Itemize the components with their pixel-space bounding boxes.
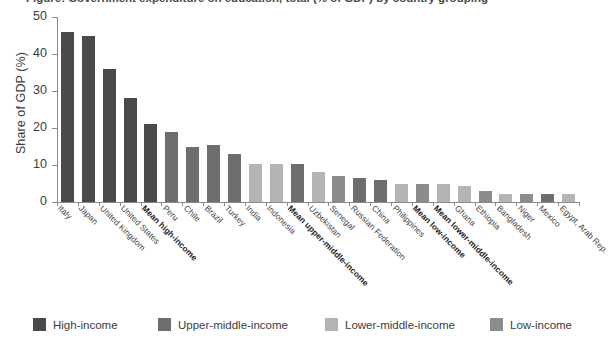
figure-title-text: Figure: Government expenditure on educat… bbox=[0, 0, 589, 5]
x-axis-label: Chile bbox=[182, 203, 203, 224]
legend-swatch-icon bbox=[158, 318, 171, 331]
legend-item[interactable]: Upper-middle-income bbox=[158, 318, 288, 331]
bar bbox=[249, 164, 262, 202]
bar bbox=[103, 69, 116, 202]
chart-legend: High-incomeUpper-middle-incomeLower-midd… bbox=[0, 318, 589, 344]
bar bbox=[499, 194, 512, 202]
bar bbox=[332, 176, 345, 202]
legend-label: Upper-middle-income bbox=[178, 319, 288, 331]
bar bbox=[82, 36, 95, 203]
y-tick-label: 0 bbox=[7, 194, 47, 208]
bar-series bbox=[57, 17, 579, 202]
y-tick-label: 20 bbox=[7, 120, 47, 134]
bar bbox=[228, 154, 241, 202]
bar bbox=[291, 164, 304, 202]
y-tick-label: 10 bbox=[7, 157, 47, 171]
bar bbox=[541, 194, 554, 202]
figure-title-cropped: Figure: Government expenditure on educat… bbox=[0, 0, 589, 5]
legend-item[interactable]: Low-income bbox=[490, 318, 572, 331]
plot-area: 01020304050 bbox=[57, 17, 579, 202]
legend-item[interactable]: Lower-middle-income bbox=[325, 318, 455, 331]
bar bbox=[61, 32, 74, 202]
x-axis-label: Japan bbox=[77, 203, 100, 226]
bar bbox=[312, 172, 325, 202]
y-tick-label: 30 bbox=[7, 83, 47, 97]
x-axis-label: Mexico bbox=[537, 203, 563, 229]
legend-label: Lower-middle-income bbox=[345, 319, 455, 331]
x-axis-label: Brazil bbox=[203, 203, 225, 225]
bar bbox=[437, 184, 450, 203]
bar bbox=[374, 180, 387, 202]
x-axis-label: Egypt, Arab Rep. bbox=[557, 203, 609, 255]
bar bbox=[353, 178, 366, 202]
bar bbox=[144, 124, 157, 202]
bar bbox=[479, 191, 492, 202]
legend-item[interactable]: High-income bbox=[33, 318, 118, 331]
bar bbox=[562, 194, 575, 202]
bar bbox=[520, 194, 533, 202]
y-tick-label: 50 bbox=[7, 9, 47, 23]
bar bbox=[207, 145, 220, 202]
bar bbox=[124, 98, 137, 202]
x-axis-labels: ItalyJapanUnited KingdomUnited StatesMea… bbox=[57, 203, 587, 295]
legend-swatch-icon bbox=[325, 318, 338, 331]
bar bbox=[458, 186, 471, 202]
legend-swatch-icon bbox=[33, 318, 46, 331]
bar bbox=[186, 147, 199, 203]
bar bbox=[165, 132, 178, 202]
bar bbox=[270, 164, 283, 202]
legend-swatch-icon bbox=[490, 318, 503, 331]
legend-label: High-income bbox=[53, 319, 118, 331]
bar bbox=[416, 184, 429, 203]
bar bbox=[395, 184, 408, 203]
y-tick-label: 40 bbox=[7, 46, 47, 60]
x-axis-label: Turkey bbox=[223, 203, 248, 228]
legend-label: Low-income bbox=[510, 319, 572, 331]
x-axis-label: Italy bbox=[56, 203, 74, 221]
